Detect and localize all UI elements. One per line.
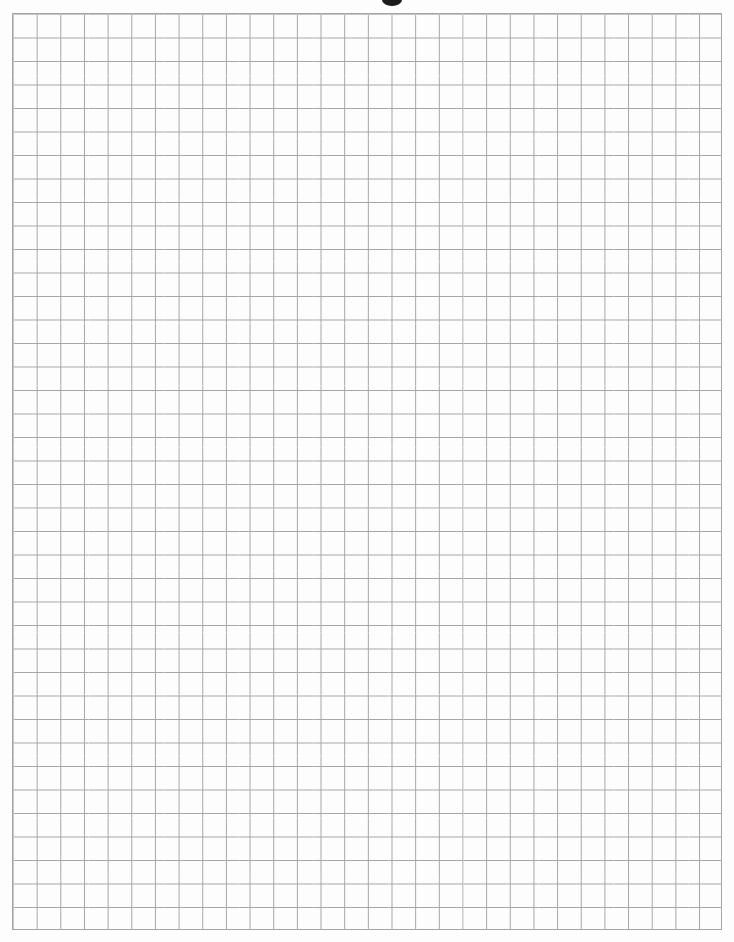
graph-paper-grid: [12, 13, 722, 930]
cropped-header-letter-mark: [382, 0, 402, 6]
scanned-page: [0, 0, 734, 942]
